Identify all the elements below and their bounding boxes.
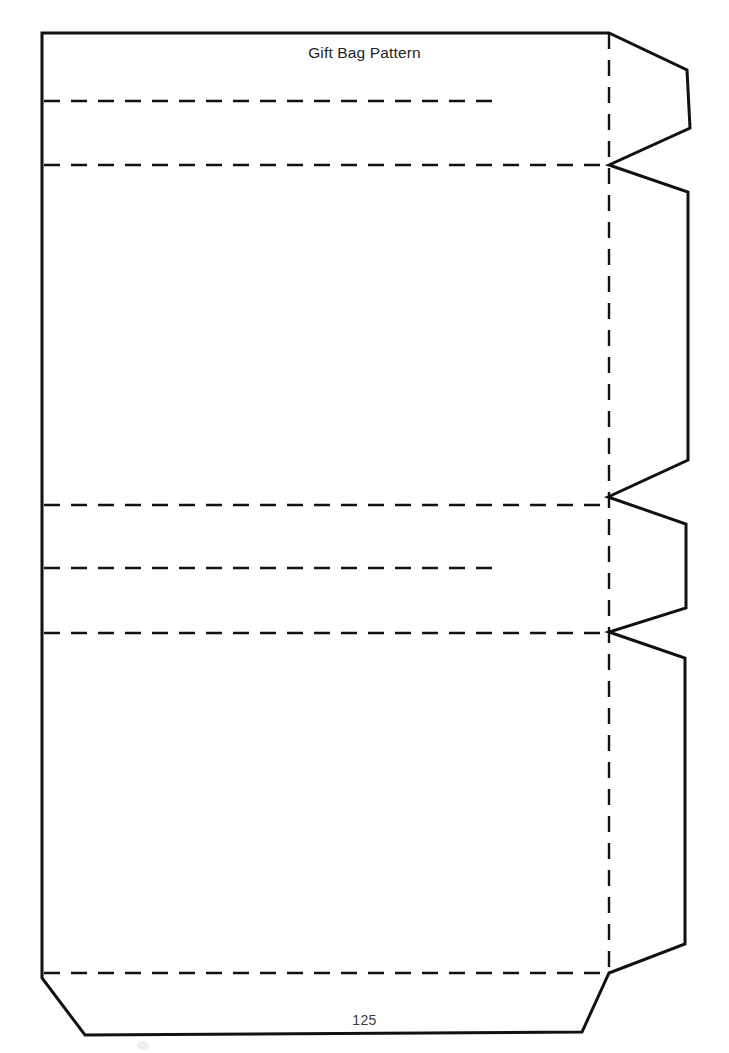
cut-outline-path [42,33,690,1035]
page-number: 125 [0,1012,729,1028]
gift-bag-pattern-drawing [0,0,729,1053]
page-title: Gift Bag Pattern [0,44,729,62]
pattern-page: Gift Bag Pattern 125 [0,0,729,1053]
paper-smudge [137,1041,149,1050]
